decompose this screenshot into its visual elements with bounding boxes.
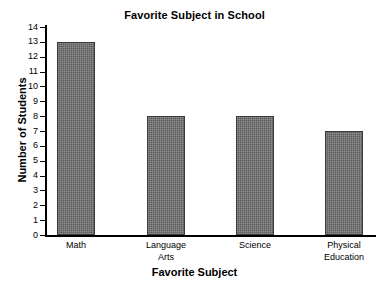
y-axis-tick-label: 6 (18, 141, 38, 150)
chart-title: Favorite Subject in School (0, 9, 389, 21)
y-axis-tick-label: 0 (18, 231, 38, 240)
bar (57, 42, 95, 235)
y-axis-tick (40, 235, 46, 236)
y-axis-tick-label: 10 (18, 82, 38, 91)
y-axis-tick-label: 2 (18, 201, 38, 210)
bar (147, 116, 185, 235)
y-axis-tick-label: 12 (18, 52, 38, 61)
y-axis-tick-label: 4 (18, 171, 38, 180)
y-axis-tick-label: 14 (18, 23, 38, 32)
x-axis-category-label: Physical Education (289, 240, 389, 263)
bar (236, 116, 274, 235)
y-axis-tick-label: 13 (18, 37, 38, 46)
bar (325, 131, 363, 235)
plot-area (46, 27, 376, 235)
x-axis-title: Favorite Subject (0, 266, 389, 278)
y-axis-tick-label: 3 (18, 186, 38, 195)
y-axis-tick-label: 11 (18, 67, 38, 76)
bar-chart: Favorite Subject in School Number of Stu… (0, 0, 389, 286)
y-axis-tick-label: 9 (18, 97, 38, 106)
x-axis-line (45, 235, 376, 237)
y-axis-tick-label: 8 (18, 112, 38, 121)
y-axis-tick-label: 1 (18, 216, 38, 225)
y-axis-tick-label: 5 (18, 156, 38, 165)
y-axis-tick-label: 7 (18, 127, 38, 136)
